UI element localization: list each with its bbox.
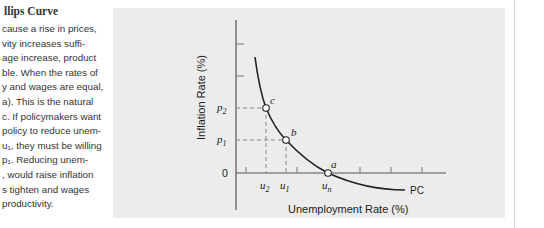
- point-b-marker: [283, 137, 290, 144]
- y-axis-title: Inflation Rate (%): [195, 55, 207, 140]
- phillips-curve-chart: c b a p2 p1 0 u2 u1 un PC Unemployment R…: [0, 0, 544, 228]
- point-a-marker: [325, 170, 332, 177]
- point-c-label: c: [270, 94, 275, 106]
- guide-lines: [236, 108, 286, 173]
- curve-label-pc: PC: [410, 185, 424, 196]
- y-tick-label-zero: 0: [222, 167, 228, 179]
- x-tick-label-u2: u2: [260, 179, 270, 194]
- point-b-label: b: [291, 126, 297, 138]
- y-tick-label-p1: p1: [216, 133, 227, 148]
- x-axis-title: Unemployment Rate (%): [288, 203, 408, 215]
- point-c-marker: [263, 105, 270, 112]
- point-a-label: a: [331, 158, 337, 170]
- y-tick-label-p2: p2: [216, 101, 227, 116]
- x-tick-label-u1: u1: [280, 179, 290, 194]
- x-tick-label-un: un: [322, 179, 332, 194]
